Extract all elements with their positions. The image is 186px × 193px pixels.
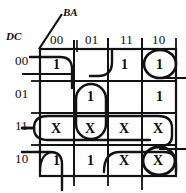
cell-r00-c11: 1 xyxy=(121,58,128,72)
karnaugh-map-diagram: DC BA 00 01 11 10 00 01 11 10 xyxy=(0,0,186,193)
group-loop-bottom-right-pair xyxy=(104,152,176,172)
cell-r11-c00: X xyxy=(51,122,61,136)
cell-r10-c01: 1 xyxy=(87,154,94,168)
group-loop-corner-top-left xyxy=(30,57,72,88)
cell-r11-c10: X xyxy=(153,122,163,136)
group-loop-corner-bottom-left-arc xyxy=(40,152,54,172)
cell-r11-c01: X xyxy=(85,122,95,136)
cell-r10-c10: X xyxy=(153,154,163,168)
axis-diagonal-line xyxy=(39,14,62,49)
cell-r11-c11: X xyxy=(119,122,129,136)
cell-r01-c10: 1 xyxy=(156,90,163,104)
cell-r10-c11: X xyxy=(119,154,129,168)
cell-r10-c00: 1 xyxy=(53,154,60,168)
cell-r00-c00: 1 xyxy=(53,58,60,72)
group-loop-row-11 xyxy=(22,116,172,146)
cell-r00-c10: 1 xyxy=(156,58,163,72)
cell-r01-c01: 1 xyxy=(87,90,94,104)
